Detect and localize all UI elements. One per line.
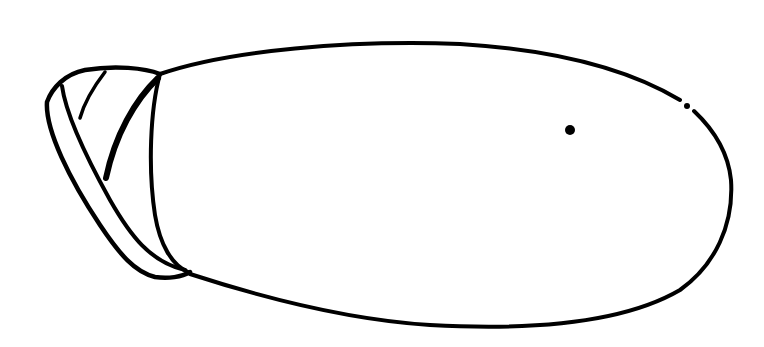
- body-right-outline: [190, 111, 731, 327]
- capsule-illustration: [0, 0, 764, 347]
- line-drawing-canvas: [0, 0, 764, 347]
- cap-outer-outline: [47, 67, 190, 277]
- outline-gap-dot: [684, 103, 690, 109]
- interior-dot: [565, 125, 575, 135]
- body-top-outline: [160, 43, 680, 100]
- cap-inner-band-2: [80, 72, 105, 118]
- cap-body-boundary: [151, 74, 188, 272]
